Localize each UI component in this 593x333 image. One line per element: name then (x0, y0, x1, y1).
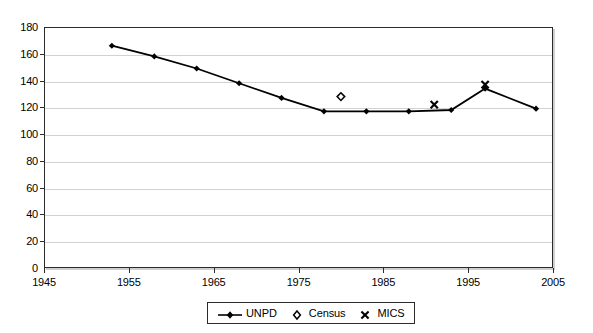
y-tick-mark-20 (40, 241, 44, 242)
x-tick-mark-1965 (214, 268, 215, 273)
x-tick-mark-1945 (44, 268, 45, 273)
x-tick-mark-1975 (299, 268, 300, 273)
y-tick-label-140: 140 (0, 76, 38, 87)
legend-label-census: Census (309, 307, 346, 319)
x-tick-mark-1995 (468, 268, 469, 273)
line-chart: 180 160 140 120 100 80 60 40 20 0 1945 1… (0, 0, 593, 333)
y-tick-label-60: 60 (0, 183, 38, 194)
y-tick-label-160: 160 (0, 49, 38, 60)
x-tick-label-2005: 2005 (529, 276, 577, 288)
y-tick-mark-60 (40, 188, 44, 189)
y-tick-label-100: 100 (0, 129, 38, 140)
legend-entry-census[interactable]: Census (290, 307, 346, 319)
y-tick-mark-160 (40, 54, 44, 55)
x-tick-mark-2005 (553, 268, 554, 273)
open-diamond-icon (290, 307, 304, 319)
legend-label-unpd: UNPD (246, 307, 277, 319)
y-tick-mark-40 (40, 214, 44, 215)
y-tick-label-120: 120 (0, 102, 38, 113)
x-tick-mark-1985 (383, 268, 384, 273)
y-tick-label-0: 0 (0, 263, 38, 274)
x-tick-label-1985: 1985 (359, 276, 407, 288)
x-tick-label-1955: 1955 (105, 276, 153, 288)
x-tick-label-1945: 1945 (20, 276, 68, 288)
unpd-line-marker-icon (217, 307, 243, 319)
y-tick-mark-120 (40, 107, 44, 108)
y-tick-mark-100 (40, 134, 44, 135)
y-tick-mark-140 (40, 81, 44, 82)
legend-entry-mics[interactable]: MICS (358, 307, 404, 319)
legend-label-mics: MICS (377, 307, 404, 319)
x-tick-label-1965: 1965 (190, 276, 238, 288)
x-tick-mark-1955 (129, 268, 130, 273)
x-tick-label-1995: 1995 (444, 276, 492, 288)
y-tick-label-80: 80 (0, 156, 38, 167)
y-tick-label-40: 40 (0, 209, 38, 220)
y-tick-mark-80 (40, 161, 44, 162)
y-tick-label-180: 180 (0, 22, 38, 33)
legend: UNPD Census MICS (207, 302, 415, 324)
y-tick-label-20: 20 (0, 236, 38, 247)
x-tick-label-1975: 1975 (275, 276, 323, 288)
legend-entry-unpd[interactable]: UNPD (217, 307, 277, 319)
cross-icon (358, 307, 372, 319)
